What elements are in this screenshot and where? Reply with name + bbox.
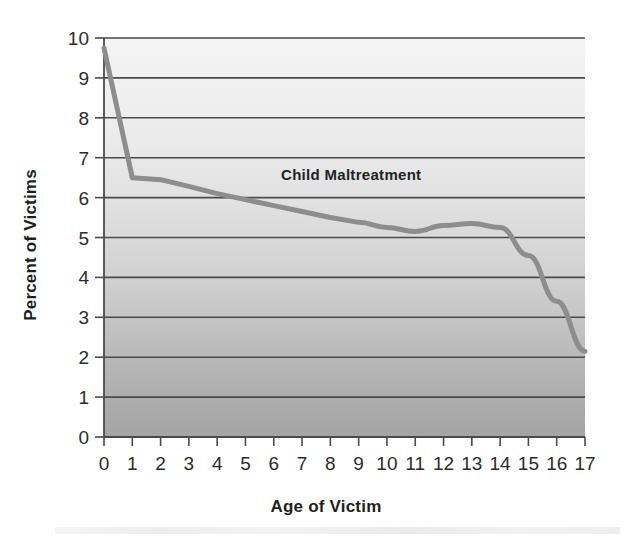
x-tick-label-11: 11 bbox=[405, 453, 425, 474]
y-tick-label-0: 0 bbox=[78, 427, 89, 448]
y-tick-label-9: 9 bbox=[78, 68, 89, 89]
chart-figure: 012345678910 01234567891011121314151617 … bbox=[0, 0, 627, 545]
scan-artifact-strip bbox=[55, 527, 620, 534]
y-tick-label-2: 2 bbox=[78, 347, 89, 368]
x-tick-label-2: 2 bbox=[155, 453, 166, 474]
x-tick-label-15: 15 bbox=[518, 453, 539, 474]
y-tick-label-8: 8 bbox=[78, 108, 89, 129]
x-tick-label-8: 8 bbox=[325, 453, 336, 474]
x-axis-title: Age of Victim bbox=[271, 497, 382, 516]
x-tick-label-5: 5 bbox=[240, 453, 251, 474]
y-tick-label-7: 7 bbox=[78, 148, 89, 169]
x-tick-label-7: 7 bbox=[297, 453, 308, 474]
x-tick-label-13: 13 bbox=[461, 453, 482, 474]
x-tick-label-0: 0 bbox=[99, 453, 110, 474]
y-tick-label-10: 10 bbox=[68, 28, 89, 49]
y-tick-label-5: 5 bbox=[78, 228, 89, 249]
y-axis-title: Percent of Victims bbox=[21, 169, 40, 321]
x-tick-label-6: 6 bbox=[268, 453, 279, 474]
x-tick-label-10: 10 bbox=[376, 453, 397, 474]
x-tick-label-4: 4 bbox=[212, 453, 223, 474]
x-tick-label-1: 1 bbox=[127, 453, 138, 474]
x-tick-label-16: 16 bbox=[546, 453, 567, 474]
x-tick-label-9: 9 bbox=[353, 453, 364, 474]
series-inline-label: Child Maltreatment bbox=[281, 166, 421, 183]
x-tick-label-3: 3 bbox=[184, 453, 195, 474]
x-tick-label-14: 14 bbox=[490, 453, 512, 474]
x-tick-label-12: 12 bbox=[433, 453, 454, 474]
y-tick-label-3: 3 bbox=[78, 307, 89, 328]
line-chart-svg: 012345678910 01234567891011121314151617 … bbox=[0, 0, 627, 545]
y-tick-label-6: 6 bbox=[78, 188, 89, 209]
x-tick-label-17: 17 bbox=[574, 453, 595, 474]
y-tick-label-4: 4 bbox=[78, 267, 89, 288]
y-tick-label-1: 1 bbox=[78, 387, 89, 408]
